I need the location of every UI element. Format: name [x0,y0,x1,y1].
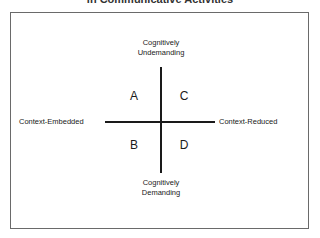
label-line: Demanding [121,188,201,198]
quadrant-c-label: C [176,89,192,103]
axis-label-context-embedded: Context-Embedded [19,117,84,127]
axis-label-cognitively-demanding: Cognitively Demanding [121,178,201,198]
label-line: Cognitively [121,178,201,188]
diagram-title: in Communicative Activities [0,0,320,5]
label-line: Cognitively [121,38,201,48]
axis-label-cognitively-undemanding: Cognitively Undemanding [121,38,201,58]
vertical-axis-line [160,67,162,173]
label-line: Undemanding [121,48,201,58]
quadrant-b-label: B [126,138,142,152]
quadrant-a-label: A [126,89,142,103]
horizontal-axis-line [105,121,215,123]
quadrant-d-label: D [176,138,192,152]
axis-label-context-reduced: Context-Reduced [219,117,277,127]
